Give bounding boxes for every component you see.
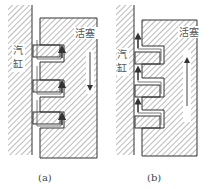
cylinder-wall [116,5,134,155]
cylinder-wall [8,5,32,155]
cylinder-label-bottom: 缸 [117,62,127,74]
piston-ring [135,116,160,128]
piston-label: 活塞 [179,26,199,38]
cylinder-label-top: 汽 [117,48,127,60]
panel-a: 活塞 汽 缸 (a) [8,5,98,183]
caption-b: (b) [147,172,161,183]
piston-ring [135,52,160,64]
cylinder-label-top: 汽 [13,44,23,56]
piston-ring [135,85,160,97]
caption-a: (a) [38,172,52,183]
piston-ring-diagram: 活塞 汽 缸 (a) 活塞 汽 缸 (b) [0,0,211,189]
panel-b: 活塞 汽 缸 (b) [116,5,204,183]
cylinder-label-bottom: 缸 [13,58,23,70]
piston-label: 活塞 [75,27,95,39]
